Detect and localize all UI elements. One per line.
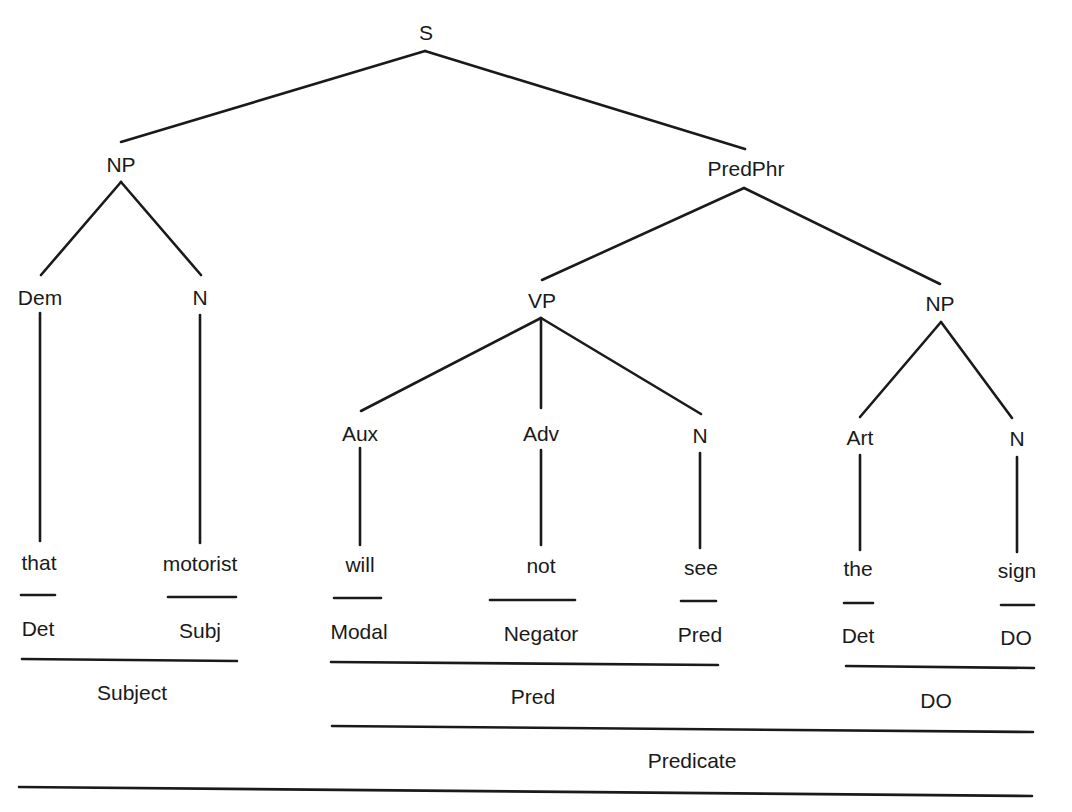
node-art: Art [847,426,874,449]
node-adv: Adv [523,422,560,445]
node-aux: Aux [342,422,379,445]
line-subject [22,659,237,661]
edge-predphr-vp [542,188,744,280]
syntax-tree-diagram: S NP PredPhr Dem N VP NP Aux Adv N Art N… [0,0,1072,812]
function-subj: Subj [179,619,221,642]
word-sign: sign [998,559,1037,582]
word-underlines [21,595,1034,605]
words: that motorist will not see the sign [21,551,1036,582]
edge-predphr-np [744,188,940,284]
node-dem: Dem [18,286,62,309]
edge-np-dem [41,182,121,275]
line-pred [331,662,718,665]
word-will: will [344,553,374,576]
word-motorist: motorist [163,552,238,575]
function-pred: Pred [678,623,722,646]
edge-np-n-obj [941,322,1012,418]
group-pred: Pred [511,685,555,708]
edge-np-art [860,322,941,417]
function-do: DO [1000,626,1032,649]
edge-s-predphr [425,51,745,149]
edge-vp-aux [361,318,541,411]
line-do [846,666,1034,668]
word-the: the [843,557,872,580]
word-see: see [684,556,718,579]
node-n-subject: N [192,286,207,309]
line-sentence [19,787,1032,796]
node-np-subject: NP [106,153,135,176]
node-s: S [419,21,433,44]
line-pred-group [332,726,1033,732]
node-n-object: N [1009,427,1024,450]
group-lines [19,659,1034,796]
word-that: that [21,551,56,574]
function-det-that: Det [22,617,55,640]
tree-nodes: S NP PredPhr Dem N VP NP Aux Adv N Art N [18,21,1025,450]
edge-vp-n [541,318,701,414]
function-labels: Det Subj Modal Negator Pred Det DO [22,617,1032,649]
node-predphr: PredPhr [707,157,784,180]
group-predicate: Predicate [648,749,737,772]
group-subject: Subject [97,681,167,704]
function-modal: Modal [330,620,387,643]
node-np-object: NP [925,292,954,315]
node-vp: VP [528,289,556,312]
edge-s-np [121,51,425,142]
word-not: not [526,554,555,577]
node-n-verb: N [692,424,707,447]
function-negator: Negator [504,622,579,645]
edge-np-n [121,182,201,275]
function-det-the: Det [842,624,875,647]
group-do: DO [920,689,952,712]
